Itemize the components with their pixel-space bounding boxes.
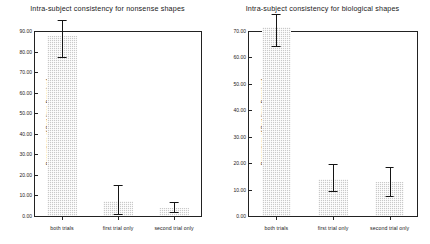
y-axis-tick	[248, 137, 252, 138]
y-axis-tick	[34, 195, 38, 196]
error-bar-cap	[329, 191, 338, 192]
y-axis-tick-label: 60.00	[19, 90, 32, 96]
y-axis-tick	[248, 216, 252, 217]
y-axis-tick-label: 0.00	[22, 213, 32, 219]
error-bar-cap	[272, 46, 281, 47]
figure-canvas: Intra-subject consistency for nonsense s…	[0, 0, 430, 244]
x-axis-tick-label: second trial only	[154, 225, 193, 231]
y-axis-tick-label: 30.00	[19, 151, 32, 157]
y-axis-tick	[34, 31, 38, 32]
y-axis-tick-label: 20.00	[233, 160, 246, 166]
y-axis-tick-label: 80.00	[19, 49, 32, 55]
x-axis-tick	[333, 216, 334, 220]
y-axis-tick	[248, 57, 252, 58]
x-axis-tick	[62, 216, 63, 220]
error-bar-line	[333, 164, 334, 190]
error-bar-cap	[385, 196, 394, 197]
y-axis-tick	[34, 134, 38, 135]
error-bar-line	[276, 14, 277, 46]
chart-panel-biological: Intra-subject consistency for biological…	[215, 0, 430, 244]
y-axis-tick-label: 30.00	[233, 134, 246, 140]
x-axis-tick	[390, 216, 391, 220]
error-bar-cap	[272, 14, 281, 15]
y-axis-tick-label: 70.00	[233, 28, 246, 34]
y-axis-tick-label: 20.00	[19, 172, 32, 178]
y-axis-tick	[34, 72, 38, 73]
y-axis-tick	[34, 154, 38, 155]
chart-title-right: Intra-subject consistency for biological…	[215, 4, 430, 13]
x-axis-tick-label: first trial only	[318, 225, 349, 231]
error-bar-cap	[170, 202, 179, 203]
y-axis-tick	[34, 52, 38, 53]
y-axis-tick	[34, 93, 38, 94]
y-axis-tick-label: 60.00	[233, 54, 246, 60]
x-axis-tick	[118, 216, 119, 220]
chart-title-left: Intra-subject consistency for nonsense s…	[0, 4, 215, 13]
y-axis-tick-label: 10.00	[233, 187, 246, 193]
error-bar-cap	[329, 164, 338, 165]
y-axis-tick-label: 40.00	[19, 131, 32, 137]
x-axis-tick-label: both trials	[265, 225, 289, 231]
x-axis-tick-label: both trials	[50, 225, 74, 231]
y-axis-tick	[248, 163, 252, 164]
error-bar-line	[390, 167, 391, 196]
error-bar-line	[174, 202, 175, 212]
error-bar-cap	[114, 185, 123, 186]
y-axis-tick	[34, 175, 38, 176]
error-bar-cap	[58, 20, 67, 21]
x-axis-tick-label: first trial only	[103, 225, 134, 231]
y-axis-tick	[34, 113, 38, 114]
x-axis-tick	[276, 216, 277, 220]
y-axis-tick-label: 90.00	[19, 28, 32, 34]
bar	[262, 27, 291, 216]
error-bar-cap	[385, 167, 394, 168]
y-axis-tick-label: 50.00	[19, 110, 32, 116]
chart-panel-nonsense: Intra-subject consistency for nonsense s…	[0, 0, 215, 244]
y-axis-tick	[248, 190, 252, 191]
y-axis-tick	[248, 84, 252, 85]
error-bar-line	[62, 20, 63, 57]
y-axis-tick-label: 0.00	[236, 213, 246, 219]
y-axis-tick	[248, 31, 252, 32]
y-axis-tick-label: 70.00	[19, 69, 32, 75]
error-bar-cap	[58, 57, 67, 58]
y-axis-tick	[34, 216, 38, 217]
y-axis-tick-label: 50.00	[233, 81, 246, 87]
error-bar-cap	[170, 212, 179, 213]
error-bar-line	[118, 185, 119, 214]
y-axis-tick-label: 40.00	[233, 107, 246, 113]
x-axis-tick	[174, 216, 175, 220]
x-axis-tick-label: second trial only	[370, 225, 409, 231]
bar	[47, 36, 76, 216]
y-axis-tick-label: 10.00	[19, 192, 32, 198]
y-axis-tick	[248, 110, 252, 111]
error-bar-cap	[114, 214, 123, 215]
